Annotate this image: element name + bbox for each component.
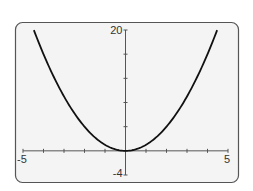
- x-min-label: -5: [17, 153, 27, 165]
- parabola-chart: 20 -4 -5 5: [0, 0, 253, 191]
- graphing-calculator-screen: 20 -4 -5 5: [0, 0, 253, 191]
- y-max-label: 20: [110, 24, 122, 36]
- x-max-label: 5: [224, 153, 230, 165]
- y-min-label: -4: [113, 167, 123, 179]
